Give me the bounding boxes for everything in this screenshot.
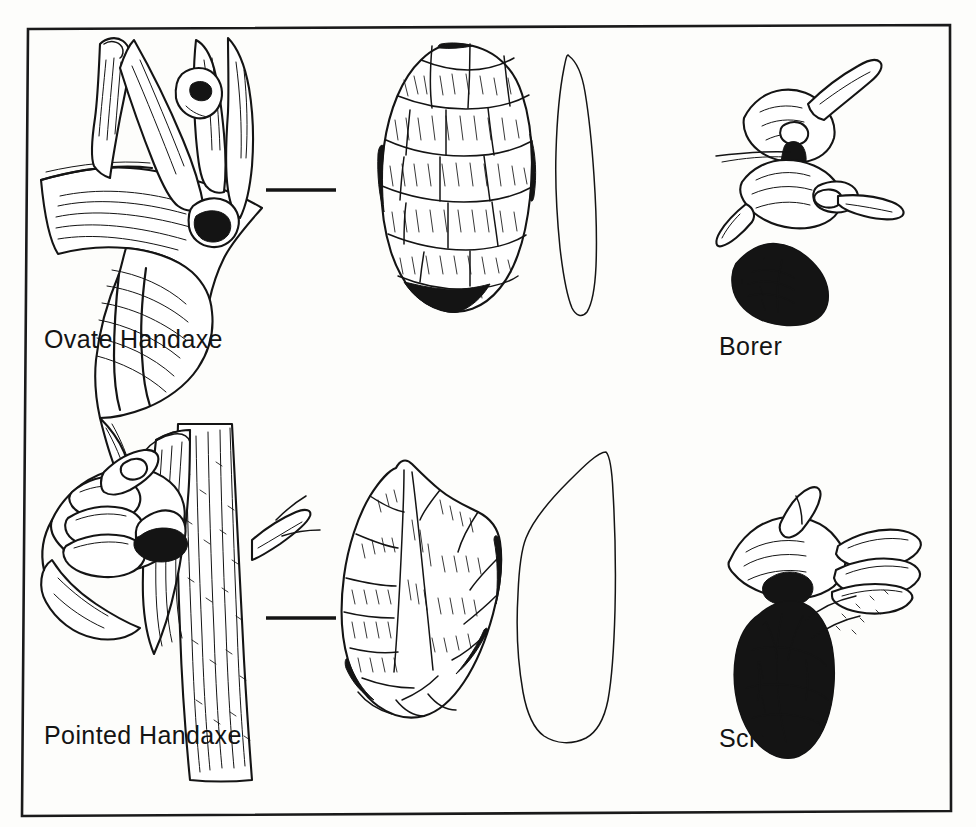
scene-borer-use	[716, 60, 904, 325]
tool-ovate-handaxe-profile	[556, 55, 597, 315]
illustration-plate: .ol { fill:none; stroke:#141414; stroke-…	[0, 0, 976, 827]
tool-pointed-handaxe-face	[342, 461, 502, 718]
label-pointed-handaxe: Pointed Handaxe	[44, 723, 242, 748]
label-scraper: Scraper	[719, 726, 809, 751]
tool-pointed-handaxe-profile	[517, 452, 615, 743]
scene-scraper-use	[728, 487, 921, 758]
tool-ovate-handaxe-face	[378, 43, 536, 312]
label-borer: Borer	[719, 334, 782, 359]
label-ovate-handaxe: Ovate Handaxe	[44, 327, 223, 352]
tool-illustrations: .ol { fill:none; stroke:#141414; stroke-…	[0, 0, 976, 827]
